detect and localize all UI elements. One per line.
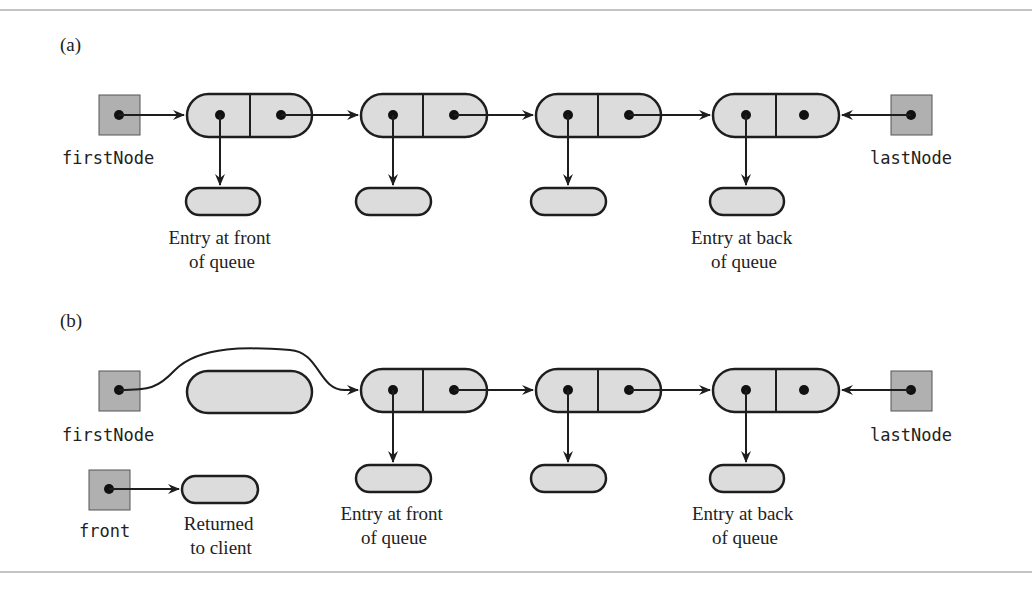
back-entry-caption: Entry at back of queue [691,227,797,272]
detached-node [187,371,312,413]
entry-b-2 [531,465,606,492]
entry-1 [186,188,260,215]
panel-a-label: (a) [60,34,81,56]
back-entry-caption-b: Entry at back of queue [692,503,798,548]
queue-linked-diagram: (a) firstNode [0,0,1032,593]
first-node-label: firstNode [62,148,154,168]
entry-b-3 [710,465,784,492]
panel-a: (a) firstNode [60,34,952,272]
front-label: front [79,521,130,541]
node-b-3 [713,369,839,412]
first-node-label-b: firstNode [62,425,154,445]
panel-b-label: (b) [60,310,82,332]
panel-b: (b) firstNode [60,310,952,558]
entry-4 [710,188,784,215]
last-node-label-b: lastNode [870,425,952,445]
entry-b-1 [356,465,431,492]
last-node-label: lastNode [870,148,952,168]
node-4 [713,94,839,137]
front-entry-caption: Entry at front of queue [168,227,275,272]
entry-2 [356,188,431,215]
returned-entry [182,476,258,503]
returned-caption: Returned to client [184,513,258,558]
entry-3 [531,188,606,215]
front-entry-caption-b: Entry at front of queue [340,503,447,548]
